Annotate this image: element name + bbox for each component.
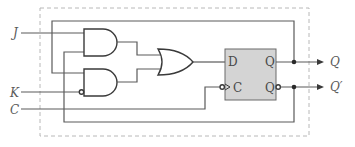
wire-and2-or	[117, 69, 162, 82]
and-gate-2	[84, 69, 117, 96]
ff-pin-d-label: D	[228, 55, 238, 69]
circuit-diagram: J K C D Q C Q Q Q′	[0, 0, 355, 147]
clock-invert-bubble-icon	[220, 85, 224, 89]
output-q-label: Q	[330, 55, 340, 69]
wire-and1-or	[117, 42, 162, 55]
or-gate	[158, 49, 193, 75]
arrow-q-icon	[317, 59, 324, 65]
input-c-label: C	[10, 103, 19, 117]
ff-pin-c-label: C	[233, 81, 242, 95]
junction-qn-icon	[292, 85, 297, 90]
junction-q-icon	[292, 60, 297, 65]
output-qprime-label: Q′	[330, 80, 343, 94]
input-j-label: J	[10, 26, 19, 40]
invert-bubble-k-icon	[79, 90, 83, 94]
qn-invert-bubble-icon	[276, 85, 280, 89]
input-k-label: K	[9, 86, 20, 100]
ff-pin-q-label: Q	[265, 55, 275, 69]
ff-pin-qn-label: Q	[265, 81, 275, 95]
arrow-qn-icon	[317, 84, 324, 90]
and-gate-1	[84, 29, 117, 56]
wire-clock	[21, 87, 220, 109]
